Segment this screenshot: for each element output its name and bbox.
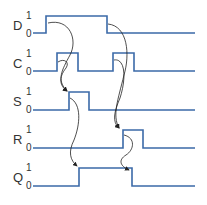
signal-d: D 1 0: [13, 10, 195, 39]
signal-c-high-label: 1: [26, 48, 32, 59]
signal-q-high-label: 1: [26, 162, 32, 173]
signal-s-high-label: 1: [26, 86, 32, 97]
signal-r-label: R: [13, 132, 22, 147]
signal-r: R 1 0: [13, 124, 195, 153]
signal-r-low-label: 0: [26, 142, 32, 153]
signal-q: Q 1 0: [13, 162, 195, 191]
signal-c-waveform: [33, 53, 195, 71]
arrow-s-to-q: [70, 98, 79, 166]
signal-r-high-label: 1: [26, 124, 32, 135]
signal-q-waveform: [33, 168, 195, 186]
signal-s-label: S: [13, 94, 22, 109]
timing-diagram: D 1 0 C 1 0 S 1 0 R 1 0 Q 1 0: [0, 0, 207, 205]
signal-c: C 1 0: [13, 48, 195, 77]
signal-c-low-label: 0: [26, 66, 32, 77]
signal-q-low-label: 0: [26, 180, 32, 191]
arrow-c-to-s: [58, 60, 67, 91]
signal-s-waveform: [33, 92, 195, 110]
signal-s: S 1 0: [13, 86, 195, 115]
signal-d-high-label: 1: [26, 10, 32, 21]
signal-r-waveform: [33, 130, 195, 148]
signal-d-label: D: [13, 18, 22, 33]
signal-q-label: Q: [13, 170, 23, 185]
signal-d-waveform: [33, 16, 195, 33]
signal-d-low-label: 0: [26, 28, 32, 39]
signal-s-low-label: 0: [26, 104, 32, 115]
signal-c-label: C: [13, 56, 22, 71]
